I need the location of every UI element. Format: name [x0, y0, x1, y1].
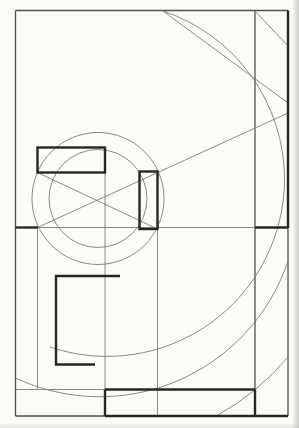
circle-outer [32, 133, 164, 265]
chord-top-right [163, 11, 288, 103]
corner-diagonal-top-right [255, 11, 288, 46]
scanned-figure-page [0, 0, 299, 428]
rectangle-top-left-bold [38, 148, 106, 173]
arc-large-sweep [50, 11, 285, 356]
arc-corner-bottom-right [216, 357, 288, 416]
geometric-construction-diagram [0, 0, 299, 428]
circle-inner [49, 150, 147, 248]
